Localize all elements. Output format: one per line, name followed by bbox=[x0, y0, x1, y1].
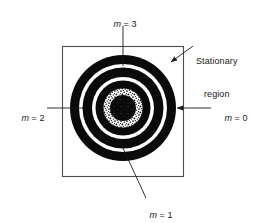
label-stationary-line1: Stationary bbox=[196, 56, 238, 67]
label-stationary-line2: region bbox=[196, 89, 238, 100]
label-m2-symbol: m bbox=[21, 113, 29, 123]
label-m2-value: = 2 bbox=[29, 113, 45, 123]
leader-stationary bbox=[171, 46, 193, 62]
figure-container: m = 3 m = 2 m = 0 m = 1 Stationary regio… bbox=[0, 0, 255, 223]
label-m-equals-1: m = 1 bbox=[139, 199, 173, 223]
concentric-rings bbox=[70, 55, 176, 161]
label-m-equals-2: m = 2 bbox=[11, 102, 45, 135]
label-m-equals-3: m = 3 bbox=[103, 8, 137, 41]
label-stationary-region: Stationary region bbox=[196, 34, 238, 122]
label-m1-symbol: m bbox=[149, 210, 157, 220]
dark-core bbox=[110, 95, 136, 121]
label-m3-value: = 3 bbox=[121, 19, 137, 29]
label-m1-value: = 1 bbox=[157, 210, 173, 220]
label-m3-symbol: m bbox=[113, 19, 121, 29]
